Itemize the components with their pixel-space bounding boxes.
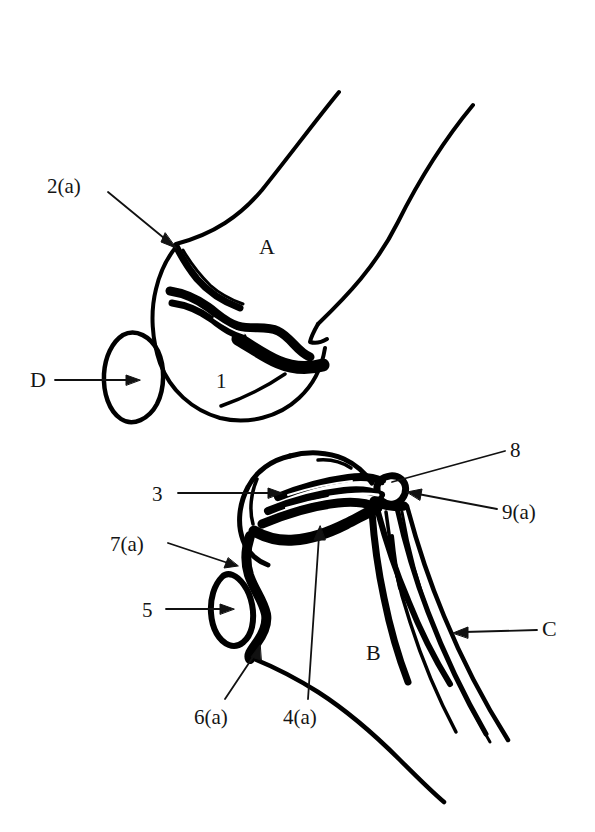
label-A: A [259, 236, 275, 258]
upper-bone-posterior-shaft [318, 105, 473, 324]
lower-bone-B-outline [252, 658, 444, 802]
label-3: 3 [152, 484, 163, 505]
label-9a: 9(a) [502, 502, 536, 523]
label-6a: 6(a) [194, 707, 228, 728]
arrowhead-5 [220, 604, 234, 614]
lower-bone-group [211, 453, 508, 802]
lower-joint-gap [330, 494, 378, 497]
arrowhead-D [126, 375, 140, 385]
leader-2a [108, 192, 170, 243]
label-D: D [30, 369, 46, 391]
upper-bone-distal-flare [310, 324, 327, 343]
label-B: B [366, 642, 381, 664]
label-5: 5 [142, 600, 153, 621]
arrowhead-C [453, 627, 468, 638]
lower-shaft-C-right [407, 506, 508, 740]
arrowhead-9a [407, 489, 422, 500]
leader-6a [225, 654, 255, 699]
lower-shaft-C-inner [402, 512, 490, 742]
label-C: C [542, 618, 557, 640]
label-4a: 4(a) [283, 707, 317, 728]
leader-7a [168, 543, 228, 563]
leader-9a [418, 494, 497, 509]
label-2a: 2(a) [47, 176, 81, 197]
upper-bone-anterior-shaft [176, 92, 339, 244]
figure-root: 2(a) A D 1 3 8 9(a) 7(a) 5 C B 6(a) 4(a) [0, 0, 595, 832]
lower-epiphysis-left-edge [251, 479, 257, 524]
leader-lines [55, 192, 537, 699]
leader-C [464, 630, 537, 632]
label-8: 8 [510, 440, 521, 461]
arrowhead-2a [161, 233, 176, 248]
upper-bone-group [104, 92, 473, 422]
label-1: 1 [216, 371, 227, 392]
lower-joint-knob-highlight [385, 482, 398, 486]
arrowhead-7a [224, 558, 238, 568]
label-7a: 7(a) [110, 534, 144, 555]
upper-condyle-ridge [221, 374, 285, 406]
leader-8 [392, 451, 505, 482]
leader-4a [308, 536, 319, 699]
